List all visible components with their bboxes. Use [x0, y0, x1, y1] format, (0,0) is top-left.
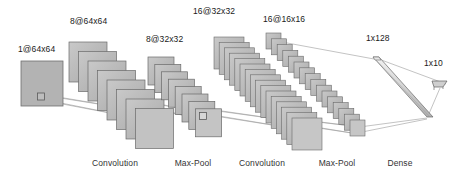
block-stack-conv2	[214, 37, 322, 150]
layer-label-conv2: 16@32x32	[193, 6, 235, 16]
cnn-architecture-diagram: 1@64x64 8@64x64 8@32x32 16@32x32 16@16x1…	[0, 0, 470, 188]
layer-label-output: 1x10	[424, 58, 443, 68]
stage-label-maxpool-2: Max-Pool	[302, 158, 372, 168]
stage-label-convolution-1: Convolution	[75, 158, 155, 168]
stage-label-convolution-2: Convolution	[222, 158, 302, 168]
layer-label-dense: 1x128	[366, 33, 390, 43]
layer-label-conv1: 8@64x64	[70, 16, 107, 26]
receptive-field-marker	[200, 113, 207, 120]
receptive-field-marker	[38, 93, 45, 100]
layer-label-pool2: 16@16x16	[263, 14, 305, 24]
stage-label-maxpool-1: Max-Pool	[158, 158, 228, 168]
layer-label-input: 1@64x64	[18, 44, 55, 54]
block-input-image	[21, 61, 63, 106]
layer-label-pool1: 8@32x32	[146, 34, 183, 44]
stage-label-dense: Dense	[372, 158, 428, 168]
